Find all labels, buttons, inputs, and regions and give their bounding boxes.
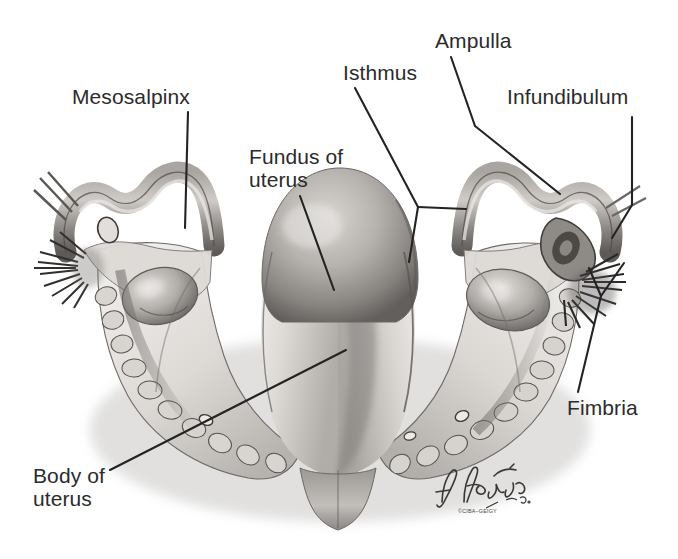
illustration-page: Mesosalpinx Fundus of uterus Isthmus Amp… (0, 0, 678, 559)
fundus-highlight (282, 204, 342, 248)
anatomy-illustration (34, 168, 646, 530)
label-fundus-of-uterus: Fundus of uterus (249, 145, 343, 191)
vesicular-appendage-left (94, 215, 121, 246)
artist-signature: ©CIBA–GEIGY (434, 462, 544, 514)
label-mesosalpinx: Mesosalpinx (72, 85, 190, 108)
mesosalpinx-leader (185, 112, 188, 228)
fimbriae-left-mass (72, 248, 104, 288)
ampulla-leader (451, 57, 475, 126)
label-fimbria: Fimbria (567, 396, 638, 419)
label-isthmus: Isthmus (343, 61, 417, 84)
copyright-text: ©CIBA–GEIGY (458, 508, 497, 514)
label-body-of-uterus: Body of uterus (33, 464, 105, 510)
label-infundibulum: Infundibulum (507, 85, 628, 108)
fundus-of-uterus (262, 168, 418, 322)
label-ampulla: Ampulla (435, 29, 512, 52)
